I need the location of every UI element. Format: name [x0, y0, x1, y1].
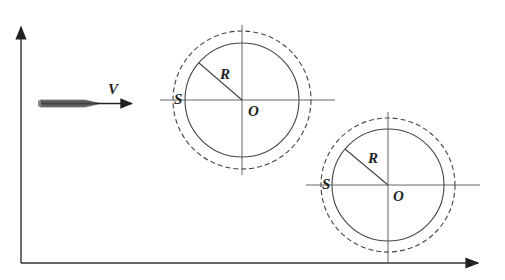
projectile-tail — [38, 101, 41, 107]
radius-label: R — [367, 150, 378, 166]
target-circle-1: R O S — [160, 25, 335, 175]
diagram-canvas: V R O S R O S — [0, 0, 505, 280]
radius-line — [345, 149, 388, 185]
radius-label: R — [219, 66, 230, 82]
center-label: O — [248, 103, 259, 119]
center-label: O — [393, 188, 404, 204]
axes — [21, 27, 478, 263]
projectile: V — [38, 81, 132, 107]
velocity-label: V — [108, 81, 120, 97]
surface-label: S — [174, 91, 182, 107]
target-circle-2: R O S — [306, 112, 480, 263]
surface-label: S — [322, 176, 330, 192]
projectile-body — [40, 100, 100, 107]
